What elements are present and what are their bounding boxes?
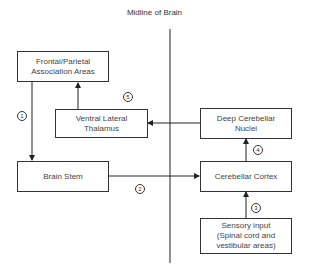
- box-cerebellar-cortex: Cerebellar Cortex: [200, 161, 292, 192]
- box-sensory-input: Sensory input (Spinal cord and vestibula…: [200, 218, 292, 254]
- box-frontal-parietal: Frontal/Parietal Association Areas: [17, 51, 109, 82]
- box-deep-cerebellar-nuclei: Deep Cerebellar Nuclei: [200, 108, 292, 139]
- box-ventral-lateral-thalamus: Ventral Lateral Thalamus: [55, 109, 148, 138]
- step-1-badge: 1: [17, 111, 27, 121]
- step-3-badge: 3: [251, 203, 261, 213]
- step-5-badge: 5: [123, 92, 133, 102]
- box-brain-stem: Brain Stem: [17, 161, 109, 192]
- step-4-badge: 4: [253, 145, 263, 155]
- step-2-badge: 2: [135, 184, 145, 194]
